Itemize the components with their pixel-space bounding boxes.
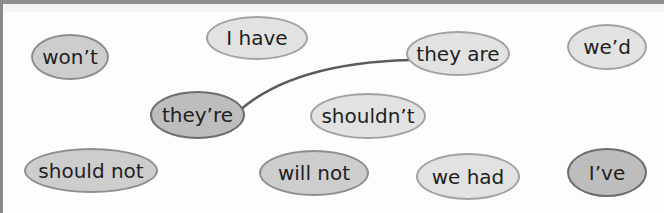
oval-they-are[interactable]: they are — [406, 31, 510, 76]
oval-label: should not — [38, 159, 143, 183]
oval-label: won’t — [42, 45, 97, 69]
oval-label: shouldn’t — [321, 104, 414, 128]
oval-label: I’ve — [589, 161, 625, 185]
oval-should-not[interactable]: should not — [24, 148, 158, 193]
oval-ive[interactable]: I’ve — [567, 148, 647, 197]
oval-label: they’re — [162, 103, 233, 127]
oval-i-have[interactable]: I have — [206, 16, 308, 60]
oval-wed[interactable]: we’d — [567, 24, 647, 70]
oval-we-had[interactable]: we had — [416, 153, 520, 200]
oval-theyre[interactable]: they’re — [150, 91, 245, 139]
oval-wont[interactable]: won’t — [31, 34, 109, 80]
oval-label: they are — [416, 42, 499, 66]
oval-will-not[interactable]: will not — [259, 150, 369, 196]
oval-label: will not — [278, 161, 350, 185]
oval-shouldnt[interactable]: shouldn’t — [310, 93, 426, 139]
oval-label: we had — [432, 165, 505, 189]
oval-label: we’d — [583, 35, 631, 59]
oval-label: I have — [226, 26, 287, 50]
